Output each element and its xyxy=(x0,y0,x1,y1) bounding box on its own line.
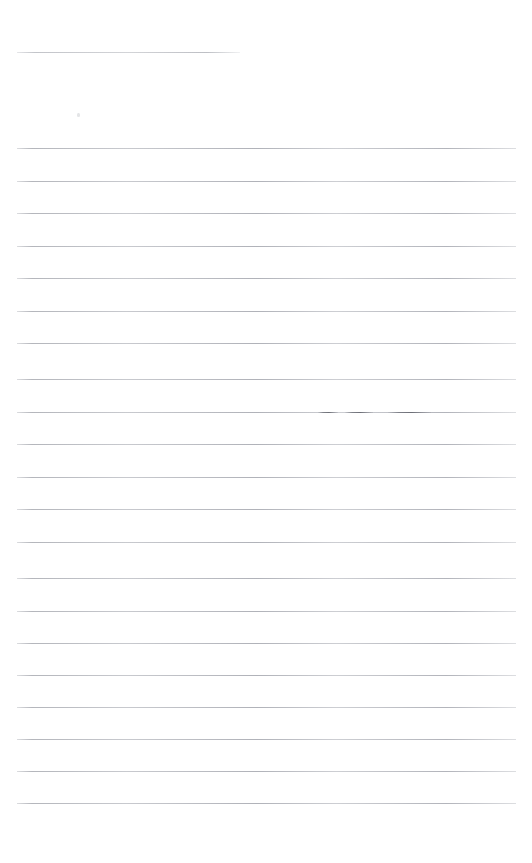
ruled-line xyxy=(17,181,516,182)
pen-dash-mark xyxy=(388,412,431,413)
ruled-line xyxy=(17,213,516,214)
ruled-line xyxy=(17,246,516,247)
scanned-page xyxy=(0,0,532,863)
ruled-line xyxy=(17,707,516,708)
ruled-line xyxy=(17,771,516,772)
ruled-line xyxy=(17,542,516,543)
ruled-line xyxy=(17,803,516,804)
ruled-line xyxy=(17,611,516,612)
ruled-line xyxy=(17,379,516,380)
ruled-line xyxy=(17,739,516,740)
ruled-line xyxy=(17,148,516,149)
ruled-line xyxy=(17,444,516,445)
ruled-line xyxy=(17,578,516,579)
ruled-line xyxy=(17,278,516,279)
pen-dash-mark xyxy=(318,412,338,413)
ruled-line xyxy=(17,343,516,344)
ruled-line xyxy=(17,509,516,510)
ruled-line-short xyxy=(17,52,240,53)
ruled-line xyxy=(17,477,516,478)
ruled-line xyxy=(17,675,516,676)
pen-dash-mark xyxy=(345,412,373,413)
ruled-line xyxy=(17,643,516,644)
scan-speck xyxy=(77,113,80,117)
ruled-line xyxy=(17,311,516,312)
ruled-line xyxy=(17,412,516,413)
